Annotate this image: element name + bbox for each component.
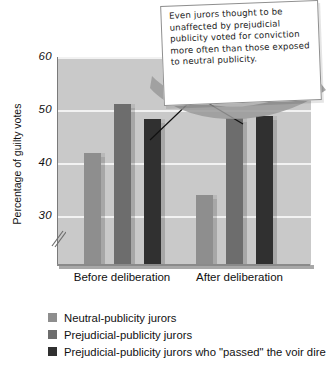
bar-face: [114, 104, 131, 264]
bar-before-neutral: [84, 153, 101, 264]
bar-side: [161, 123, 165, 264]
bar-top-bevel: [213, 195, 217, 199]
legend-label: Neutral-publicity jurors: [64, 312, 176, 324]
legend-label: Prejudicial-publicity jurors who "passed…: [64, 346, 326, 358]
legend-swatch-icon: [48, 330, 57, 339]
legend-swatch-icon: [48, 347, 57, 356]
bar-before-prejudicial: [114, 104, 131, 264]
bar-after-neutral: [196, 195, 213, 264]
bar-side: [243, 122, 247, 264]
legend-item-passed-voir-dire: Prejudicial-publicity jurors who "passed…: [48, 344, 326, 359]
y-tick-label-50: 50: [22, 103, 52, 115]
bar-before-passed-voir-dire: [144, 119, 161, 264]
bar-side: [273, 120, 277, 264]
callout-note: Even jurors thought to be unaffected by …: [162, 3, 320, 103]
legend: Neutral-publicity jurors Prejudicial-pub…: [48, 310, 326, 361]
legend-item-prejudicial: Prejudicial-publicity jurors: [48, 327, 326, 342]
bar-side: [101, 157, 105, 264]
bar-face: [84, 153, 101, 264]
legend-label: Prejudicial-publicity jurors: [64, 329, 192, 341]
callout-text: Even jurors thought to be unaffected by …: [169, 5, 313, 68]
bar-face: [196, 195, 213, 264]
x-axis-line: [57, 264, 310, 266]
bar-after-prejudicial: [226, 118, 243, 264]
bar-top-bevel: [131, 104, 135, 108]
bar-face: [226, 118, 243, 264]
bar-chart-figure: 60 50 40 30 Percentage of guilty votes: [0, 0, 330, 366]
x-category-label-after: After deliberation: [182, 271, 297, 283]
legend-swatch-icon: [48, 313, 57, 322]
axis-break-icon: [50, 228, 66, 250]
bar-face: [256, 116, 273, 264]
legend-item-neutral: Neutral-publicity jurors: [48, 310, 326, 325]
bar-side: [131, 108, 135, 264]
bar-after-passed-voir-dire: [256, 116, 273, 264]
plot-area-shadow: [59, 265, 314, 269]
bar-top-bevel: [101, 153, 105, 157]
y-tick-label-30: 30: [22, 209, 52, 221]
bar-face: [144, 119, 161, 264]
bar-side: [213, 199, 217, 264]
x-category-label-before: Before deliberation: [62, 271, 182, 283]
y-axis-title: Percentage of guilty votes: [11, 79, 23, 249]
y-tick-label-40: 40: [22, 156, 52, 168]
y-tick-label-60: 60: [22, 50, 52, 62]
